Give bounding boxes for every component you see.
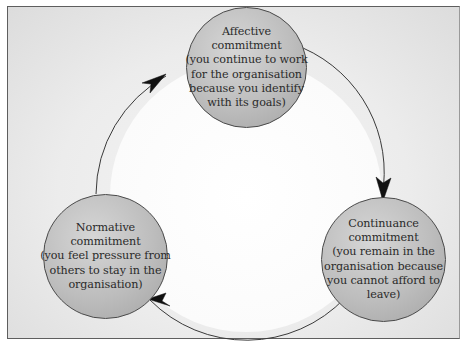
node-description: because you identify	[185, 82, 307, 96]
node-title: commitment	[324, 231, 443, 245]
node-description: organisation)	[40, 278, 171, 292]
node-description: others to stay in the	[40, 264, 171, 278]
node-normative-label: Normative commitment (you feel pressure …	[40, 221, 171, 292]
node-description: (you continue to work	[185, 53, 307, 67]
node-title: Normative	[40, 221, 171, 235]
node-description: organisation because	[324, 260, 443, 274]
node-continuance-commitment: Continuance commitment (you remain in th…	[321, 197, 446, 322]
node-description: for the organisation	[185, 68, 307, 82]
node-title: Continuance	[324, 217, 443, 231]
node-affective-label: Affective commitment (you continue to wo…	[185, 25, 307, 110]
node-normative-commitment: Normative commitment (you feel pressure …	[43, 194, 168, 319]
node-continuance-label: Continuance commitment (you remain in th…	[324, 217, 443, 302]
node-description: leave)	[324, 288, 443, 302]
diagram-canvas: Affective commitment (you continue to wo…	[0, 0, 469, 347]
node-description: you cannot afford to	[324, 274, 443, 288]
node-description: (you remain in the	[324, 245, 443, 259]
node-affective-commitment: Affective commitment (you continue to wo…	[186, 7, 307, 128]
node-description: (you feel pressure from	[40, 249, 171, 263]
node-title: commitment	[185, 39, 307, 53]
node-description: with its goals)	[185, 96, 307, 110]
node-title: Affective	[185, 25, 307, 39]
node-title: commitment	[40, 235, 171, 249]
